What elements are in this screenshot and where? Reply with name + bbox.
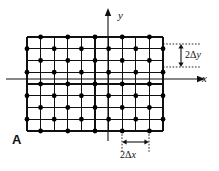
lattice-point <box>161 70 166 75</box>
lattice-point <box>52 117 57 122</box>
lattice-point <box>106 70 111 75</box>
lattice-point <box>161 117 166 122</box>
lattice-point <box>93 105 98 110</box>
lattice-point <box>120 58 125 63</box>
lattice-point <box>147 105 152 110</box>
lattice-point <box>120 35 125 40</box>
delta-y-variable: y <box>196 49 200 60</box>
figure-background <box>0 0 219 171</box>
y-axis-label: y <box>118 10 123 21</box>
lattice-point <box>120 105 125 110</box>
lattice-point <box>93 82 98 87</box>
lattice-point <box>93 129 98 134</box>
lattice-point <box>147 35 152 40</box>
lattice-point <box>25 93 30 98</box>
lattice-point <box>65 35 70 40</box>
lattice-point <box>106 46 111 51</box>
lattice-point <box>79 46 84 51</box>
lattice-point <box>161 93 166 98</box>
lattice-point <box>38 35 43 40</box>
lattice-point <box>93 35 98 40</box>
lattice-point <box>133 93 138 98</box>
panel-label: A <box>12 133 21 146</box>
lattice-point <box>38 82 43 87</box>
lattice-point <box>25 46 30 51</box>
lattice-point <box>38 58 43 63</box>
lattice-point <box>133 117 138 122</box>
lattice-point <box>133 46 138 51</box>
lattice-point <box>25 70 30 75</box>
lattice-point <box>38 105 43 110</box>
lattice-point <box>52 70 57 75</box>
lattice-point <box>79 70 84 75</box>
lattice-point <box>79 93 84 98</box>
lattice-point <box>147 82 152 87</box>
lattice-point <box>106 93 111 98</box>
lattice-figure <box>0 0 219 171</box>
lattice-point <box>79 117 84 122</box>
lattice-point <box>147 58 152 63</box>
lattice-point <box>65 129 70 134</box>
lattice-point <box>25 117 30 122</box>
delta-x-variable: x <box>131 149 135 160</box>
lattice-point <box>65 105 70 110</box>
lattice-point <box>161 46 166 51</box>
lattice-point <box>38 129 43 134</box>
lattice-point <box>93 58 98 63</box>
lattice-point <box>52 46 57 51</box>
lattice-point <box>106 117 111 122</box>
lattice-point <box>52 93 57 98</box>
lattice-point <box>65 58 70 63</box>
lattice-point <box>120 82 125 87</box>
lattice-point <box>133 70 138 75</box>
delta-x-label: 2Δx <box>120 150 136 160</box>
x-axis-label: x <box>202 73 207 84</box>
lattice-point <box>65 82 70 87</box>
delta-y-label: 2Δy <box>185 50 201 60</box>
